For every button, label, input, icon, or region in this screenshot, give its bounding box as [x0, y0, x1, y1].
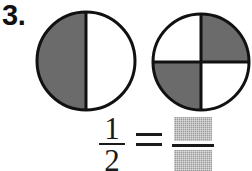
shaded-half-left	[37, 12, 86, 110]
unshaded-half-right	[86, 12, 135, 110]
problem-number: 3.	[2, 0, 25, 32]
equals-bar-bottom	[136, 143, 162, 146]
fraction-bar	[172, 144, 214, 147]
equation-row: 1 2	[92, 116, 252, 171]
fraction-one-half: 1 2	[92, 116, 132, 171]
equals-sign	[136, 133, 162, 149]
fraction-circle-halves	[32, 7, 140, 115]
equals-bar-top	[136, 133, 162, 136]
denominator: 2	[92, 148, 132, 171]
fraction-circle-quarters	[151, 9, 251, 115]
denominator-answer-blank[interactable]	[174, 150, 212, 171]
fraction-answer-blank	[170, 117, 216, 171]
numerator-answer-blank[interactable]	[174, 117, 212, 141]
worksheet-problem: 3.	[0, 0, 252, 171]
numerator: 1	[92, 116, 132, 141]
